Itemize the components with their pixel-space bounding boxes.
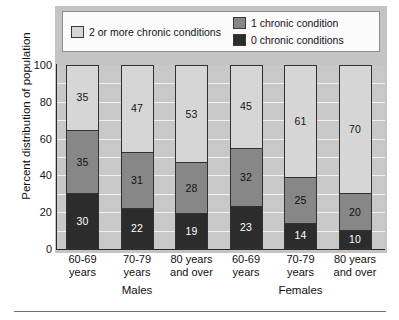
x-axis-tick-label: 60-69years [217,253,275,279]
x-axis-group-label: Males [87,284,187,296]
bar-segment-value: 35 [76,92,88,103]
legend-entry-two-or-more: 2 or more chronic conditions [71,23,221,40]
x-axis-tick-line: 60-69 [54,253,112,266]
bar-segment[interactable]: 35 [67,66,98,130]
gridline [57,139,385,140]
bar-segment[interactable]: 31 [122,152,153,208]
legend-swatch-zero-conditions-icon [233,34,246,46]
legend-entry-one-condition: 1 chronic condition [233,15,344,32]
y-axis-ticks: 100806040200 [18,65,52,249]
bar-segment-value: 53 [185,109,197,120]
bar-segment-value: 47 [131,103,143,114]
y-axis-tick-label: 20 [22,206,52,218]
bar-segment[interactable]: 32 [231,148,262,206]
gridline [57,175,385,176]
bar-segment[interactable]: 53 [176,66,207,162]
x-axis-line [57,249,385,250]
x-axis-tick-line: 80 years [163,253,221,266]
footer-rule [14,311,386,312]
chart-figure: 2 or more chronic conditions 1 chronic c… [0,0,399,320]
y-axis-tick-label: 60 [22,133,52,145]
legend-label-zero-conditions: 0 chronic conditions [251,34,344,46]
legend-label-two-or-more: 2 or more chronic conditions [89,26,221,38]
gridline [57,231,385,232]
x-axis-ticks: 60-69years70-79years80 yearsand over60-6… [57,253,385,283]
x-axis-group-labels: MalesFemales [57,284,385,300]
x-axis-tick-line: years [217,266,275,279]
bar-column[interactable]: 702010 [339,65,372,249]
y-axis-tick-label: 0 [22,243,52,255]
bar-segment[interactable]: 28 [176,162,207,213]
legend-swatch-two-or-more-icon [71,26,84,38]
bar-segment-value: 23 [240,222,252,233]
legend-swatch-one-condition-icon [233,17,246,29]
bar-segment-value: 31 [131,175,143,186]
bar-segment-value: 14 [294,230,306,241]
bar-segment[interactable]: 22 [122,208,153,248]
gridline [57,212,385,213]
bar-segment-value: 20 [349,207,361,218]
bar-segment[interactable]: 20 [340,193,371,229]
bar-segment-value: 10 [349,234,361,245]
bar-segment[interactable]: 45 [231,66,262,148]
x-axis-tick-line: 70-79 [108,253,166,266]
x-axis-group-label: Females [251,284,351,296]
bar-segment[interactable]: 47 [122,66,153,152]
bar-segment[interactable]: 30 [67,193,98,248]
bar-segment-value: 19 [185,226,197,237]
bar-segment[interactable]: 14 [285,223,316,248]
bar-segment-value: 28 [185,183,197,194]
x-axis-tick-label: 80 yearsand over [326,253,384,279]
bar-segment-value: 70 [349,124,361,135]
x-axis-tick-label: 70-79years [108,253,166,279]
bar-segment-value: 22 [131,223,143,234]
x-axis-tick-label: 70-79years [272,253,330,279]
x-axis-tick-line: and over [326,266,384,279]
x-axis-tick-line: 60-69 [217,253,275,266]
bar-segment-value: 30 [76,216,88,227]
gridline [57,157,385,158]
gridline [57,194,385,195]
bar-segment-value: 25 [294,195,306,206]
x-axis-tick-line: years [272,266,330,279]
bar-segment[interactable]: 23 [231,206,262,248]
bar-segment[interactable]: 61 [285,66,316,177]
y-axis-tick-label: 40 [22,169,52,181]
plot-area: 353530473122532819453223612514702010 [57,65,385,249]
gridline [57,102,385,103]
gridline [57,120,385,121]
y-axis-tick-label: 80 [22,96,52,108]
bar-segment[interactable]: 19 [176,213,207,248]
bar-column[interactable]: 353530 [66,65,99,249]
legend-label-one-condition: 1 chronic condition [251,17,339,29]
bar-segment[interactable]: 70 [340,66,371,193]
y-axis-line [56,64,57,250]
y-axis-tick-label: 100 [22,59,52,71]
chart-legend: 2 or more chronic conditions 1 chronic c… [62,11,380,52]
x-axis-tick-label: 80 yearsand over [163,253,221,279]
bar-segment[interactable]: 10 [340,230,371,248]
bar-column[interactable]: 532819 [175,65,208,249]
x-axis-tick-line: 80 years [326,253,384,266]
bar-segment-value: 35 [76,157,88,168]
bar-segment-value: 32 [240,172,252,183]
x-axis-tick-line: years [54,266,112,279]
legend-column-right: 1 chronic condition 0 chronic conditions [233,15,344,49]
x-axis-tick-label: 60-69years [54,253,112,279]
legend-column-left: 2 or more chronic conditions [63,23,221,40]
bar-segment[interactable]: 25 [285,177,316,223]
bar-segment-value: 61 [294,116,306,127]
x-axis-tick-line: 70-79 [272,253,330,266]
gridline [57,83,385,84]
bar-segment-value: 45 [240,101,252,112]
bar-column[interactable]: 473122 [121,65,154,249]
x-axis-tick-line: and over [163,266,221,279]
bar-column[interactable]: 612514 [284,65,317,249]
bar-column[interactable]: 453223 [230,65,263,249]
x-axis-tick-line: years [108,266,166,279]
bar-segment[interactable]: 35 [67,130,98,194]
legend-entry-zero-conditions: 0 chronic conditions [233,32,344,49]
